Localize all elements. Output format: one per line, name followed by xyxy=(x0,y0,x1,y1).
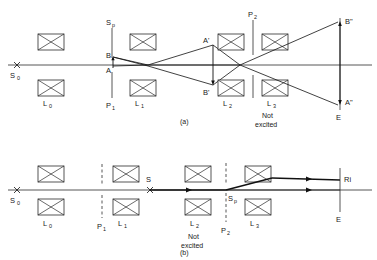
label-l0-b: L xyxy=(43,219,47,228)
caption-a: (a) xyxy=(180,118,189,126)
label-l3-b-sub: 3 xyxy=(256,223,259,229)
label-s-b: S xyxy=(146,175,151,184)
label-l3-a-sub: 3 xyxy=(273,103,276,109)
note-excited-b: excited xyxy=(181,242,203,249)
label-s0-b: S xyxy=(10,196,15,205)
lens-l3-b xyxy=(245,166,271,215)
label-l2-a: L xyxy=(223,99,227,108)
panel-b: S 0 L 0 P 1 xyxy=(8,163,372,257)
label-e-b: E xyxy=(336,215,341,224)
label-l1-a: L xyxy=(135,99,139,108)
label-sp-a-sub: p xyxy=(112,22,115,28)
note-excited-a: excited xyxy=(255,121,277,128)
label-l2-b-sub: 2 xyxy=(196,223,199,229)
lens-l0-b xyxy=(38,166,64,215)
note-not-b: Not xyxy=(188,233,199,240)
label-a-dprime-a: A" xyxy=(345,98,353,107)
lens-l1-b xyxy=(113,166,139,215)
label-b-dprime-a: B" xyxy=(345,17,353,26)
label-p2-b: P xyxy=(221,226,226,235)
axial-ray-b xyxy=(150,188,226,193)
label-l1-a-sub: 1 xyxy=(141,103,144,109)
panel-a: S 0 L 0 S p P 1 xyxy=(8,10,372,128)
label-l1-b: L xyxy=(118,219,122,228)
electron-optics-ray-diagram: S 0 L 0 S p P 1 xyxy=(0,0,377,260)
final-image-arrows-a xyxy=(338,21,342,105)
label-sp-b-sub: p xyxy=(234,198,237,204)
label-a-a: A xyxy=(106,66,111,75)
label-p2-b-sub: 2 xyxy=(227,230,230,236)
label-p2-a: P xyxy=(248,10,253,19)
label-l0-a-sub: 0 xyxy=(49,103,52,109)
label-sp-a: S xyxy=(106,18,111,27)
label-l0-b-sub: 0 xyxy=(49,223,52,229)
label-b-a: B xyxy=(106,51,111,60)
label-p1-a-sub: 1 xyxy=(112,105,115,111)
note-not-a: Not xyxy=(262,112,273,119)
label-s0-a-sub: 0 xyxy=(17,75,20,81)
label-p1-b-sub: 1 xyxy=(103,226,106,232)
label-l3-a: L xyxy=(267,99,271,108)
label-l1-b-sub: 1 xyxy=(124,223,127,229)
label-p1-a: P xyxy=(106,101,111,110)
caption-b: (b) xyxy=(180,249,189,257)
label-s0-a: S xyxy=(10,71,15,80)
label-l2-b: L xyxy=(190,219,194,228)
label-e-a: E xyxy=(336,113,341,122)
label-s0-b-sub: 0 xyxy=(17,200,20,206)
label-l2-a-sub: 2 xyxy=(229,103,232,109)
label-sp-b: S xyxy=(228,194,233,203)
label-l0-a: L xyxy=(43,99,47,108)
label-l3-b: L xyxy=(250,219,254,228)
deflected-ray-b xyxy=(226,177,340,190)
label-p1-b: P xyxy=(97,222,102,231)
diverging-beam-a xyxy=(240,22,338,105)
label-ri-b: Ri xyxy=(344,175,351,184)
axial-ray-continued-b xyxy=(226,188,340,193)
label-a-prime-a: A' xyxy=(203,36,210,45)
label-p2-a-sub: 2 xyxy=(254,14,257,20)
label-b-prime-a: B' xyxy=(203,88,210,97)
